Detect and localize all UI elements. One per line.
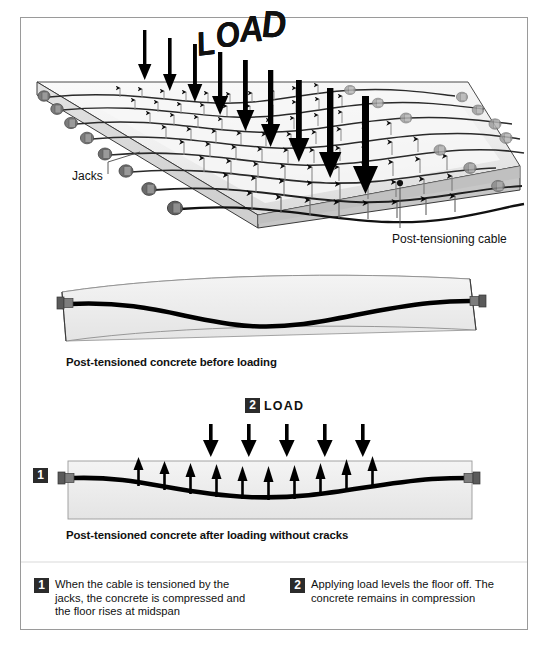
down-arrow — [279, 424, 295, 457]
down-arrow — [203, 424, 219, 457]
jack-anchor — [38, 91, 50, 101]
load-word-bottom: LOAD — [264, 399, 304, 413]
jack-anchor — [51, 104, 63, 115]
jack-anchor — [142, 183, 156, 196]
caption-after-loading: Post-tensioned concrete after loading wi… — [66, 529, 348, 541]
load-letter-d: D — [260, 5, 290, 43]
jack-anchor — [65, 117, 78, 128]
jack-anchor — [80, 132, 93, 144]
jacks-label: Jacks — [72, 169, 103, 183]
slab-3d — [37, 30, 524, 228]
down-arrow — [355, 424, 371, 457]
step-badge-2: 2 — [245, 398, 260, 413]
legend-item-2: 2 Applying load levels the floor off. Th… — [290, 578, 505, 605]
legend-badge-2: 2 — [290, 578, 305, 593]
load-label-bottom: 2 LOAD — [245, 398, 304, 413]
beam-after — [58, 424, 480, 519]
legend-text-1: When the cable is tensioned by the jacks… — [55, 578, 249, 619]
load-letter-l: L — [197, 25, 217, 61]
step-badge-1: 1 — [33, 468, 48, 483]
beam-before — [57, 275, 486, 341]
down-load-arrows — [203, 424, 371, 457]
caption-before-loading: Post-tensioned concrete before loading — [66, 356, 277, 368]
legend-text-2: Applying load levels the floor off. The … — [311, 578, 505, 605]
jack-anchor — [119, 165, 133, 177]
jack-anchor — [167, 201, 182, 215]
beam-anchor-right — [470, 295, 486, 307]
down-arrow — [241, 424, 257, 457]
beam2-anchor-right — [464, 472, 480, 484]
cable-callout-dot — [397, 180, 403, 186]
post-tensioning-cable-label: Post-tensioning cable — [392, 232, 507, 246]
beam2-anchor-left — [58, 472, 74, 484]
legend-badge-1: 1 — [34, 578, 49, 593]
beam-anchor-left — [57, 297, 73, 309]
load-arrow — [138, 30, 151, 80]
diagram-graphics — [0, 0, 544, 649]
jack-anchor — [98, 148, 112, 160]
down-arrow — [317, 424, 333, 457]
legend-item-1: 1 When the cable is tensioned by the jac… — [34, 578, 249, 619]
